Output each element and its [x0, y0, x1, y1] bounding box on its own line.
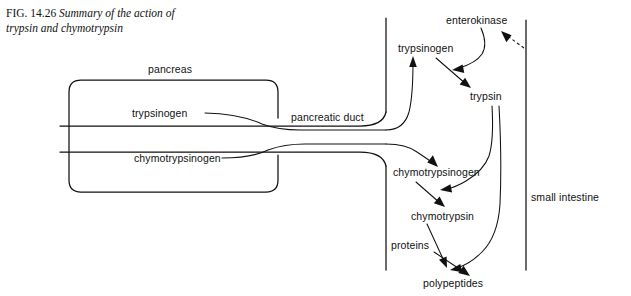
proteins-to-polypeptides-line — [434, 252, 464, 272]
label-enterokinase: enterokinase — [446, 14, 507, 26]
chymotrypsinogen-into-intestine-curve — [386, 144, 433, 163]
label-polypeptides: polypeptides — [423, 277, 483, 289]
label-trypsinogen-intestine: trypsinogen — [398, 42, 453, 54]
trypsinogen-into-intestine-arrowhead — [409, 56, 417, 67]
chymotrypsin-to-polypeptides-line — [427, 224, 444, 261]
enterokinase-secretion-arrowhead — [501, 31, 512, 42]
enzyme-cascade-diagram — [0, 0, 631, 296]
label-pancreatic-duct: pancreatic duct — [291, 111, 364, 123]
chymotrypsinogen-to-chymotrypsin-arrowhead — [434, 197, 445, 207]
figure-root: FIG. 14.26 Summary of the action of tryp… — [0, 0, 631, 296]
trypsin-to-polypeptides-curve — [457, 106, 501, 268]
trypsinogen-into-intestine-curve — [386, 62, 413, 130]
chymotrypsinogen-to-chymotrypsin-line — [416, 182, 440, 203]
chymotrypsinogen-secretion-line — [222, 144, 386, 158]
label-small-intestine: small intestine — [531, 191, 599, 203]
label-pancreas: pancreas — [148, 63, 192, 75]
pancreatic-duct-lower-wall — [60, 152, 386, 166]
label-trypsin: trypsin — [470, 90, 502, 102]
label-trypsinogen-pancreas: trypsinogen — [132, 107, 187, 119]
trypsin-to-chymotrypsinogen-arrowhead — [440, 184, 452, 192]
enterokinase-to-trypsin-arrowhead — [452, 65, 464, 73]
label-chymotrypsinogen-pancreas: chymotrypsinogen — [134, 152, 221, 164]
label-chymotrypsin: chymotrypsin — [411, 210, 474, 222]
pancreas-outline — [69, 80, 278, 192]
label-proteins: proteins — [391, 239, 429, 251]
enterokinase-to-trypsin-curve — [459, 28, 485, 68]
label-chymotrypsinogen-intestine: chymotrypsinogen — [393, 166, 480, 178]
